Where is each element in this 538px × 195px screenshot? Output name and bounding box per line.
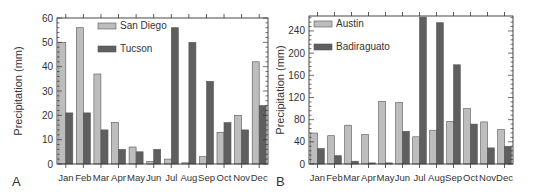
legend-label: San Diego bbox=[120, 20, 167, 31]
bar-tucson-jun bbox=[154, 149, 161, 164]
bar-badiraguato-jan bbox=[318, 149, 325, 165]
y-tick-label: 10 bbox=[42, 134, 54, 145]
x-tick-label: Nov bbox=[479, 172, 496, 183]
panel-label: A bbox=[12, 174, 21, 189]
bar-badiraguato-feb bbox=[335, 156, 342, 164]
bar-tucson-aug bbox=[189, 42, 196, 164]
chart-panel-a: JanFebMarAprMayJunJulAugSepOctNovDec0102… bbox=[12, 13, 268, 190]
y-axis-label: Precipitation (mm) bbox=[12, 46, 24, 135]
bar-badiraguato-sep bbox=[454, 65, 461, 164]
x-tick-label: Nov bbox=[233, 172, 250, 183]
x-tick-label: Aug bbox=[180, 172, 197, 183]
y-tick-label: 200 bbox=[288, 48, 305, 59]
bar-badiraguato-aug bbox=[437, 23, 444, 164]
x-tick-label: Oct bbox=[463, 172, 478, 183]
bar-austin-mar bbox=[345, 125, 352, 164]
x-tick-label: May bbox=[127, 172, 145, 183]
bar-san-diego-mar bbox=[94, 74, 101, 164]
legend-swatch bbox=[314, 21, 332, 27]
bar-austin-nov bbox=[481, 122, 488, 164]
y-tick-label: 160 bbox=[288, 70, 305, 81]
y-tick-label: 20 bbox=[42, 110, 54, 121]
bar-tucson-jan bbox=[66, 113, 73, 164]
bar-austin-aug bbox=[430, 130, 437, 164]
legend: San DiegoTucson bbox=[98, 20, 167, 54]
bar-tucson-sep bbox=[207, 81, 214, 164]
x-tick-label: Dec bbox=[496, 172, 513, 183]
bar-badiraguato-oct bbox=[471, 124, 478, 164]
bar-austin-dec bbox=[498, 130, 505, 164]
bar-austin-oct bbox=[464, 109, 471, 164]
bar-san-diego-nov bbox=[235, 115, 242, 164]
legend-label: Austin bbox=[336, 18, 364, 29]
bar-austin-jan bbox=[311, 133, 318, 164]
bar-tucson-feb bbox=[83, 113, 90, 164]
bar-austin-jul bbox=[413, 137, 420, 164]
x-tick-label: Jun bbox=[395, 172, 410, 183]
legend-swatch bbox=[98, 23, 116, 29]
bar-badiraguato-nov bbox=[488, 148, 495, 164]
x-tick-label: Jan bbox=[58, 172, 73, 183]
figure: JanFebMarAprMayJunJulAugSepOctNovDec0102… bbox=[0, 0, 538, 195]
x-tick-label: Oct bbox=[217, 172, 232, 183]
legend-swatch bbox=[98, 46, 116, 52]
bar-san-diego-dec bbox=[252, 62, 259, 164]
bar-san-diego-oct bbox=[217, 132, 224, 164]
bar-tucson-jul bbox=[171, 28, 178, 164]
y-tick-label: 40 bbox=[42, 61, 54, 72]
bar-austin-may bbox=[379, 101, 386, 164]
y-tick-label: 0 bbox=[299, 159, 305, 170]
bar-austin-sep bbox=[447, 121, 454, 164]
bar-san-diego-apr bbox=[112, 123, 119, 164]
x-tick-label: Sep bbox=[445, 172, 462, 183]
y-axis-label: Precipitation (mm) bbox=[274, 45, 286, 134]
legend: AustinBadiraguato bbox=[314, 18, 390, 52]
bar-austin-apr bbox=[362, 135, 369, 164]
bar-san-diego-feb bbox=[76, 28, 83, 164]
bar-san-diego-sep bbox=[199, 157, 206, 164]
y-tick-label: 0 bbox=[47, 159, 53, 170]
bar-austin-jun bbox=[396, 103, 403, 165]
bar-tucson-dec bbox=[259, 106, 266, 164]
y-tick-label: 40 bbox=[294, 136, 306, 147]
x-tick-label: Jun bbox=[146, 172, 161, 183]
x-tick-label: Jan bbox=[310, 172, 325, 183]
bar-tucson-nov bbox=[242, 130, 249, 164]
x-tick-label: Aug bbox=[428, 172, 445, 183]
bar-tucson-apr bbox=[119, 149, 126, 164]
legend-swatch bbox=[314, 44, 332, 50]
chart-panel-b: JanFebMarAprMayJunJulAugSepOctNovDec0408… bbox=[274, 12, 513, 189]
bar-tucson-mar bbox=[101, 130, 108, 164]
x-tick-label: Jul bbox=[165, 172, 177, 183]
bar-tucson-may bbox=[136, 152, 143, 164]
bar-san-diego-may bbox=[129, 147, 136, 164]
y-tick-label: 60 bbox=[42, 13, 54, 24]
bar-badiraguato-dec bbox=[505, 146, 512, 164]
legend-label: Badiraguato bbox=[336, 41, 390, 52]
x-tick-label: May bbox=[377, 172, 395, 183]
bar-badiraguato-jul bbox=[420, 17, 427, 164]
x-tick-label: Mar bbox=[343, 172, 359, 183]
x-tick-label: Mar bbox=[93, 172, 109, 183]
x-tick-label: Feb bbox=[326, 172, 342, 183]
y-tick-label: 80 bbox=[294, 114, 306, 125]
bar-tucson-oct bbox=[224, 123, 231, 164]
bar-austin-feb bbox=[328, 136, 335, 164]
x-tick-label: Apr bbox=[111, 172, 126, 183]
x-tick-label: Jul bbox=[413, 172, 425, 183]
y-tick-label: 120 bbox=[288, 92, 305, 103]
panel-label: B bbox=[276, 174, 285, 189]
x-tick-label: Sep bbox=[198, 172, 215, 183]
bar-san-diego-jul bbox=[164, 159, 171, 164]
y-tick-label: 50 bbox=[42, 37, 54, 48]
bar-san-diego-jan bbox=[59, 42, 66, 164]
legend-label: Tucson bbox=[120, 43, 152, 54]
x-tick-label: Dec bbox=[251, 172, 268, 183]
y-tick-label: 240 bbox=[288, 25, 305, 36]
x-tick-label: Feb bbox=[75, 172, 91, 183]
y-tick-label: 30 bbox=[42, 86, 54, 97]
x-tick-label: Apr bbox=[361, 172, 376, 183]
bar-badiraguato-jun bbox=[403, 131, 410, 164]
